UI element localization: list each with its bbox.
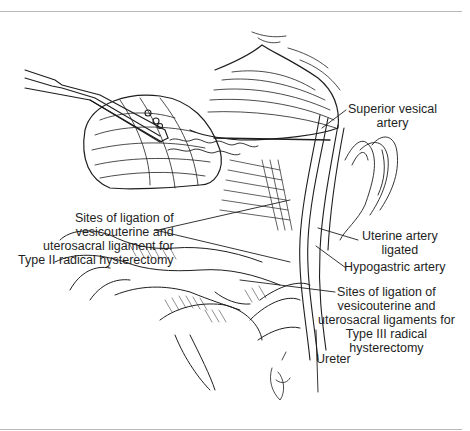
label-ureter: Ureter [316, 352, 351, 366]
clamp-instrument [25, 70, 168, 142]
hatched-tissue [220, 160, 292, 230]
label-type-iii-ligation-sites: Sites of ligation of vesicouterine and u… [318, 285, 455, 355]
label-superior-vesical-artery: Superior vesical artery [348, 102, 437, 130]
uterus-fundus [190, 32, 340, 140]
label-type-ii-ligation-sites: Sites of ligation of vesicouterine and u… [18, 211, 174, 267]
label-uterine-artery-ligated: Uterine artery ligated [362, 229, 438, 257]
page-bottom-rule [0, 429, 462, 430]
ligament-edge [168, 138, 330, 155]
label-hypogastric-artery: Hypogastric artery [344, 260, 445, 274]
artist-signature [270, 352, 290, 400]
uterine-artery-loops [340, 137, 398, 240]
